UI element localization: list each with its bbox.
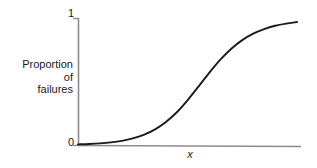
y-axis-label-line-3: failures: [8, 83, 73, 96]
y-tick-label-top: 1: [63, 8, 74, 19]
y-axis-label-line-1: Proportion: [8, 58, 73, 71]
x-axis-label: x: [172, 148, 208, 160]
y-tick-label-bottom: 0: [62, 137, 74, 148]
sigmoid-curve: [78, 22, 297, 144]
y-axis-label: Proportion of failures: [8, 58, 73, 96]
y-axis-label-line-2: of: [8, 71, 73, 84]
sigmoid-chart-figure: Proportion of failures 1 0 x: [0, 0, 317, 168]
x-axis-line: [78, 146, 301, 147]
